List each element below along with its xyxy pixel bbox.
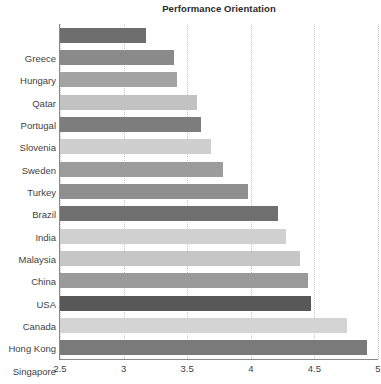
bar-row (60, 46, 378, 68)
bar-india (60, 206, 278, 221)
x-axis-line (59, 359, 378, 360)
category-label-canada: Canada (0, 321, 56, 332)
bar-usa (60, 273, 308, 288)
x-tick-label-4.5: 4.5 (308, 363, 321, 374)
category-label-turkey: Turkey (0, 187, 56, 198)
bar-row (60, 136, 378, 158)
category-label-slovenia: Slovenia (0, 142, 56, 153)
plot-area: GreeceHungaryQatarPortugalSloveniaSweden… (60, 24, 378, 359)
category-label-sweden: Sweden (0, 165, 56, 176)
category-label-usa: USA (0, 299, 56, 310)
bar-sweden (60, 139, 211, 154)
gridline-5 (378, 24, 380, 359)
x-tick-label-3.5: 3.5 (181, 363, 194, 374)
chart-title: Performance Orientation (60, 3, 378, 14)
bar-brazil (60, 184, 248, 199)
bar-row (60, 69, 378, 91)
bar-qatar (60, 72, 177, 87)
bar-row (60, 24, 378, 46)
category-label-portugal: Portugal (0, 120, 56, 131)
bar-row (60, 292, 378, 314)
bar-china (60, 251, 300, 266)
category-axis-labels: GreeceHungaryQatarPortugalSloveniaSweden… (0, 48, 56, 383)
bar-row (60, 247, 378, 269)
category-label-brazil: Brazil (0, 209, 56, 220)
bar-greece (60, 28, 146, 43)
bar-row (60, 203, 378, 225)
bar-canada (60, 296, 311, 311)
bar-slovenia (60, 117, 201, 132)
x-tick-label-2.5: 2.5 (53, 363, 66, 374)
bar-row (60, 270, 378, 292)
bar-row (60, 314, 378, 336)
bar-row (60, 180, 378, 202)
bar-row (60, 158, 378, 180)
bar-row (60, 337, 378, 359)
x-axis-tick-labels: 2.533.544.55 (60, 363, 378, 379)
bar-row (60, 225, 378, 247)
bar-portugal (60, 95, 197, 110)
x-tick-label-5: 5 (375, 363, 380, 374)
category-label-india: India (0, 232, 56, 243)
category-label-china: China (0, 276, 56, 287)
bar-singapore (60, 340, 367, 355)
category-label-malaysia: Malaysia (0, 254, 56, 265)
bar-chart: Performance Orientation GreeceHungaryQat… (0, 0, 381, 384)
category-label-greece: Greece (0, 53, 56, 64)
category-label-hong-kong: Hong Kong (0, 343, 56, 354)
category-label-qatar: Qatar (0, 98, 56, 109)
x-tick-label-4: 4 (248, 363, 253, 374)
bar-turkey (60, 162, 223, 177)
category-label-hungary: Hungary (0, 75, 56, 86)
category-label-singapore: Singapore (0, 366, 56, 377)
bar-hong-kong (60, 318, 347, 333)
x-tick-label-3: 3 (121, 363, 126, 374)
bar-malaysia (60, 229, 286, 244)
bar-row (60, 113, 378, 135)
bar-hungary (60, 50, 174, 65)
bar-row (60, 91, 378, 113)
